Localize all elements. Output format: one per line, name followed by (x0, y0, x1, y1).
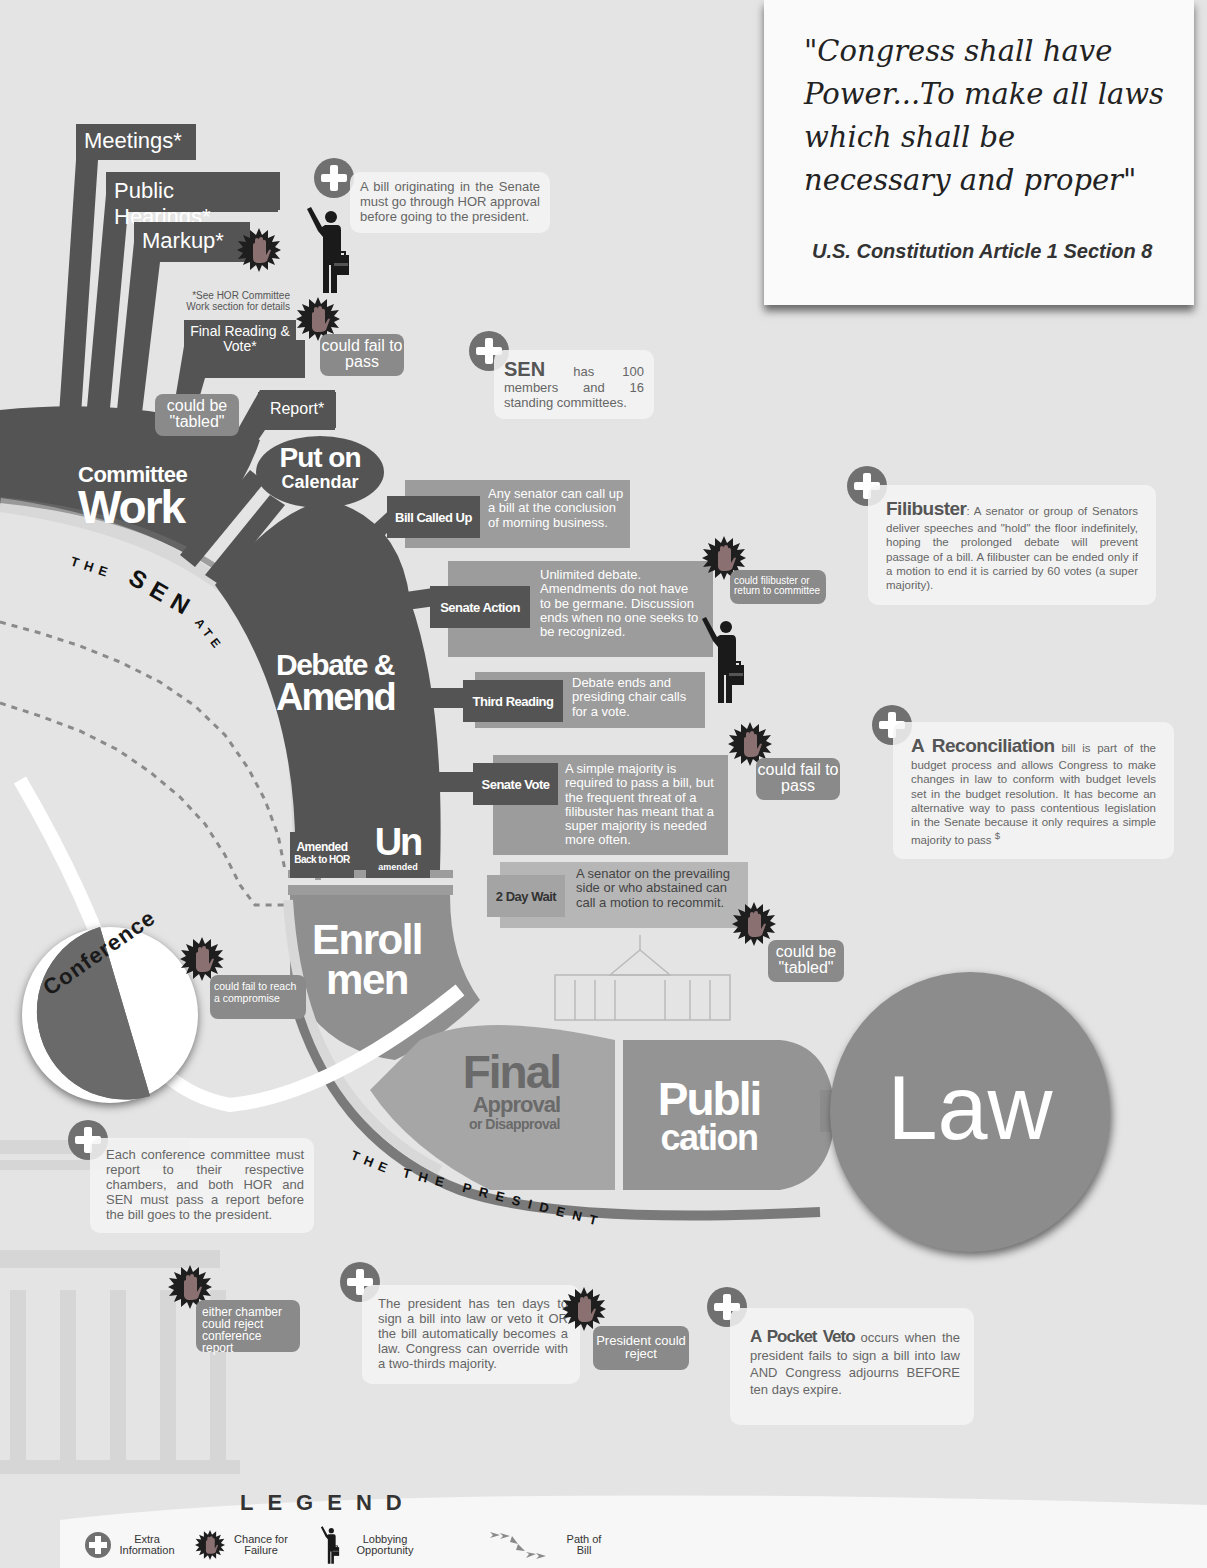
amended-back-to-hor-node: Amended Back to HOR (290, 832, 354, 878)
action-desc-third-reading: Debate ends and presiding chair calls fo… (572, 676, 702, 719)
action-label-bill-called-up: Bill Called Up (387, 496, 480, 538)
enrollment-line1: Enroll (312, 920, 422, 960)
amended-line1: Amended (290, 840, 354, 854)
fail-two-day-wait-icon (732, 902, 776, 946)
calendar-line1: Put on (256, 444, 384, 472)
quote-source: U.S. Constitution Article 1 Section 8 (812, 240, 1152, 263)
legend-label-failure: Chance for Failure (231, 1534, 291, 1556)
calendar-line2: Calendar (256, 472, 384, 492)
publication-line2: cation (644, 1120, 774, 1156)
info-sen-heading: SEN (504, 358, 545, 380)
arrow-path-icon (490, 1528, 550, 1562)
fail-label-president: President could reject (593, 1326, 689, 1370)
committee-step-meetings: Meetings* (76, 124, 196, 160)
final-approval-small: or Disapproval (440, 1116, 560, 1132)
legend-label-path: Path of Bill (564, 1534, 604, 1556)
quote-text: "Congress shall have Power...To make all… (804, 30, 1164, 202)
info-president-text: The president has ten days to sign a bil… (378, 1296, 568, 1371)
legend-label-extra-info: Extra Information (117, 1534, 177, 1556)
tabled-label-two-day-wait: could be "tabled" (768, 940, 844, 982)
lobbyist-icon (700, 615, 746, 705)
info-reconciliation-footnote: $ (995, 830, 1000, 841)
plus-circle-icon (85, 1532, 111, 1558)
put-on-calendar-node: Put on Calendar (256, 436, 384, 508)
info-reconciliation-body: bill is part of the budget process and a… (911, 742, 1156, 845)
info-card-pocket-veto: A Pocket Veto occurs when the president … (730, 1308, 974, 1425)
stop-hand-icon (195, 1530, 225, 1560)
info-pocket-veto-heading: A Pocket Veto (750, 1327, 855, 1346)
unamended-big: Un (366, 822, 430, 862)
committee-step-final-reading: Final Reading & Vote* (184, 320, 296, 362)
info-card-conference-report: Each conference committee must report to… (90, 1138, 314, 1233)
enrollment-node: Enroll men (312, 920, 422, 1000)
action-desc-senate-vote: A simple majority is required to pass a … (565, 762, 723, 848)
legend-item-lobbying: Lobbying Opportunity (320, 1525, 490, 1565)
publication-line1: Publi (644, 1078, 774, 1120)
legend-label-lobbying: Lobbying Opportunity (350, 1534, 420, 1556)
lobbyist-icon (305, 205, 351, 295)
info-card-senate-origin: A bill originating in the Senate must go… (350, 172, 550, 233)
committee-step-public-hearings: Public Hearings* (106, 172, 278, 212)
info-card-reconciliation: A Reconciliation bill is part of the bud… (893, 722, 1174, 859)
publication-node: Publi cation (644, 1078, 774, 1156)
fail-label-filibuster: could filibuster or return to committee (730, 570, 826, 604)
action-label-senate-vote: Senate Vote (473, 763, 558, 805)
debate-line2: Amend (276, 676, 395, 719)
final-approval-mid: Approval (440, 1094, 560, 1116)
tabled-label-committee: could be "tabled" (155, 394, 239, 436)
plus-circle-icon (314, 158, 354, 198)
info-conference-report-text: Each conference committee must report to… (106, 1147, 304, 1222)
action-desc-senate-action: Unlimited debate. Amendments do not have… (540, 568, 700, 639)
fail-label-senate-vote: could fail to pass (756, 758, 840, 800)
action-label-two-day-wait: 2 Day Wait (487, 875, 565, 917)
fail-label-committee-vote: could fail to pass (320, 334, 404, 376)
info-senate-origin-text: A bill originating in the Senate must go… (360, 179, 540, 224)
fail-president-icon (562, 1287, 606, 1331)
info-card-president-ten-days: The president has ten days to sign a bil… (362, 1285, 580, 1384)
fail-markup-icon (237, 228, 281, 272)
unamended-node: Un amended (366, 822, 430, 878)
amended-line2: Back to HOR (290, 854, 354, 865)
lobbyist-icon (320, 1525, 340, 1565)
unamended-small: amended (366, 862, 430, 872)
action-label-senate-action: Senate Action (430, 586, 530, 628)
final-approval-node: Final Approval or Disapproval (440, 1050, 560, 1132)
fail-label-conference-report: either chamber could reject conference r… (196, 1300, 300, 1352)
enrollment-line2: men (312, 960, 422, 1000)
constitution-quote-card: "Congress shall have Power...To make all… (764, 0, 1194, 305)
legend-item-path: Path of Bill (490, 1528, 640, 1562)
committee-step-markup: Markup* (134, 222, 244, 262)
fail-label-conference: could fail to reach a compromise (210, 975, 306, 1019)
info-card-sen-members: SEN has 100 members and 16 standing comm… (494, 350, 654, 419)
committee-step-report: Report* (258, 392, 336, 428)
action-label-third-reading: Third Reading (463, 680, 563, 722)
info-filibuster-heading: Filibuster (886, 498, 967, 519)
law-node: Law (830, 1058, 1110, 1158)
legend-title: LEGEND (240, 1490, 416, 1516)
info-reconciliation-heading: A Reconciliation (911, 735, 1055, 756)
info-card-filibuster: Filibuster: A senator or group of Senato… (868, 485, 1156, 605)
committee-work-title-large: Work (78, 480, 184, 534)
committee-footnote: *See HOR Committee Work section for deta… (175, 290, 290, 312)
action-desc-two-day-wait: A senator on the prevailing side or who … (576, 867, 746, 910)
legend: Extra Information Chance for Failure Lob… (85, 1525, 640, 1565)
legend-item-extra-info: Extra Information (85, 1532, 195, 1558)
action-desc-bill-called-up: Any senator can call up a bill at the co… (488, 487, 628, 530)
final-approval-big: Final (440, 1050, 560, 1094)
legend-item-failure: Chance for Failure (195, 1530, 320, 1560)
